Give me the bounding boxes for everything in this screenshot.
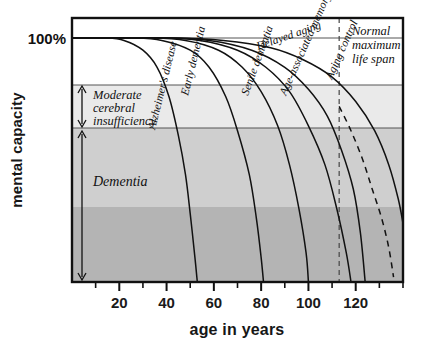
note-line-2: maximum	[352, 38, 401, 52]
moderate-label-line-1: Moderate	[92, 88, 142, 102]
x-tick-label-60: 60	[206, 294, 223, 311]
dementia-label: Dementia	[92, 174, 147, 189]
x-tick-label-20: 20	[111, 294, 128, 311]
note-line-3: life span	[352, 52, 395, 66]
band-dementia	[72, 128, 403, 207]
x-axis-title: age in years	[190, 321, 285, 338]
y-axis-title: mental capacity	[8, 92, 25, 208]
x-tick-label-80: 80	[253, 294, 270, 311]
x-tick-label-40: 40	[158, 294, 175, 311]
x-tick-label-120: 120	[343, 294, 368, 311]
x-tick-label-100: 100	[296, 294, 321, 311]
y-axis-100-percent-label: 100%	[28, 30, 66, 47]
chart-figure: 20406080100120 100% mental capacity age …	[0, 0, 428, 359]
mental-capacity-vs-age-chart: 20406080100120 100% mental capacity age …	[0, 0, 428, 359]
band-severe-dementia	[72, 207, 403, 282]
moderate-label-line-2: cerebral	[93, 101, 135, 115]
